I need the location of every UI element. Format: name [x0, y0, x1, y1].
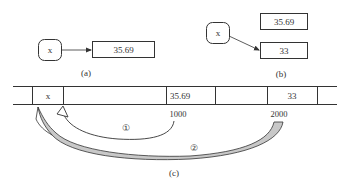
panel-c-caption: (c)	[169, 168, 179, 178]
panel-b-caption: (b)	[276, 69, 287, 79]
address-2000-label: 2000	[271, 109, 288, 119]
panel-a-value-text: 35.69	[113, 45, 134, 55]
panel-b-new-value-text: 33	[280, 46, 290, 56]
memory-cell-x: x	[46, 91, 51, 101]
panel-b-old-value-text: 35.69	[274, 17, 295, 27]
panel-b: 35.69 x 33 (b)	[207, 14, 308, 80]
memory-cell-33: 33	[288, 91, 298, 101]
step-2-marker: ②	[190, 143, 198, 153]
step-1-arrowhead	[57, 106, 68, 117]
diagram-canvas: x 35.69 (a) 35.69 x 33 (b) x 35.69 33	[0, 0, 347, 190]
panel-c: x 35.69 33 1000 2000 ① ② (c)	[13, 87, 337, 179]
diagram-svg: x 35.69 (a) 35.69 x 33 (b) x 35.69 33	[0, 0, 347, 190]
panel-a-variable-label: x	[48, 45, 53, 55]
step-1-marker: ①	[122, 123, 130, 133]
address-1000-label: 1000	[170, 109, 187, 119]
panel-b-reference-arrow	[229, 36, 259, 50]
panel-b-variable-label: x	[216, 28, 221, 38]
step-1-arrow	[57, 106, 174, 139]
step-2-arrow	[36, 107, 283, 160]
panel-a-caption: (a)	[81, 68, 91, 78]
memory-cell-35-69: 35.69	[170, 91, 191, 101]
memory-strip: x 35.69 33	[13, 87, 337, 105]
panel-a: x 35.69 (a)	[39, 40, 155, 79]
